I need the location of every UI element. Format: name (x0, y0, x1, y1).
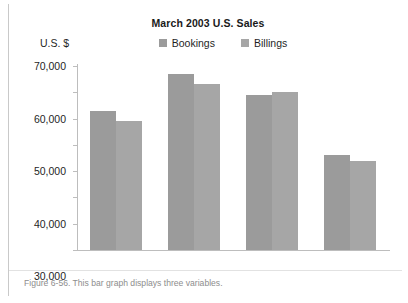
figure-container: March 2003 U.S. Sales U.S. $ BookingsBil… (0, 0, 408, 303)
y-axis-tick: 0 (73, 250, 77, 251)
chart-legend: BookingsBillings (14, 37, 402, 49)
legend-label: Billings (254, 37, 287, 49)
bar-chart: March 2003 U.S. Sales U.S. $ BookingsBil… (14, 4, 402, 266)
legend-swatch-icon (241, 39, 249, 47)
bar-south-bookings[interactable] (246, 95, 272, 250)
y-axis-tick-label: 60,000 (34, 113, 66, 125)
y-axis-tick: 10,000 (73, 224, 77, 225)
legend-label: Bookings (172, 37, 215, 49)
legend-swatch-icon (159, 39, 167, 47)
bar-north-billings[interactable] (116, 121, 142, 250)
figure-left-rule (8, 4, 9, 296)
bar-group-south (246, 66, 298, 250)
bar-west-billings[interactable] (350, 161, 376, 250)
chart-title: March 2003 U.S. Sales (14, 17, 402, 29)
bar-south-billings[interactable] (272, 92, 298, 250)
bar-group-north (90, 66, 142, 250)
legend-item-bookings[interactable]: Bookings (159, 37, 215, 49)
y-axis-tick: 30,000 (73, 171, 77, 172)
y-axis-tick: 50,000 (73, 119, 77, 120)
figure-caption: Figure 6-56. This bar graph displays thr… (24, 278, 223, 288)
bar-east-billings[interactable] (194, 84, 220, 250)
legend-item-billings[interactable]: Billings (241, 37, 287, 49)
bar-west-bookings[interactable] (324, 155, 350, 250)
y-axis-tick: 60,000 (73, 92, 77, 93)
x-axis-line (77, 250, 390, 251)
y-axis-tick-label: 50,000 (34, 165, 66, 177)
y-axis-tick: 20,000 (73, 197, 77, 198)
y-axis-tick: 40,000 (73, 145, 77, 146)
y-axis-tick: 70,000 (73, 66, 77, 67)
y-axis-tick-label: 70,000 (34, 60, 66, 72)
bar-north-bookings[interactable] (90, 111, 116, 250)
bar-east-bookings[interactable] (168, 74, 194, 250)
plot-area: 70,00060,00050,00040,00030,00020,00010,0… (77, 66, 389, 250)
caption-divider (9, 270, 402, 271)
bar-group-east (168, 66, 220, 250)
bar-group-west (324, 66, 376, 250)
y-axis-tick-label: 40,000 (34, 218, 66, 230)
